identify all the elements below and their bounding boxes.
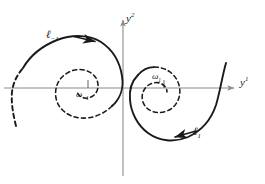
- curve-label-l-minus-1: ℓ−1: [46, 29, 59, 43]
- omega-minus1-label: ω−1: [76, 90, 89, 101]
- curve-l-1-main: [130, 63, 226, 140]
- curve-l-1: [130, 63, 226, 140]
- curve-label-l-1: ℓ1: [193, 126, 201, 140]
- curve-l-minus-1: [12, 36, 123, 126]
- y2-axis-label: y2: [126, 12, 134, 24]
- y1-axis-label: y1: [240, 76, 248, 88]
- spiral-phase-diagram: y1 y2 ω−1 ω1 ℓ−1 ℓ1: [0, 0, 265, 184]
- omega-1-label: ω1: [152, 72, 161, 83]
- curve-l-minus-1-tail: [12, 68, 23, 126]
- diagram-canvas: [0, 0, 265, 184]
